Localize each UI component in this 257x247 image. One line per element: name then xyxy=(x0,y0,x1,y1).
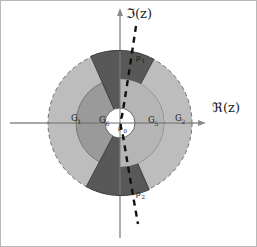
center-label-rho0-text: ρ xyxy=(118,123,123,132)
center-label-rho0-sub: 0 xyxy=(124,128,128,134)
wedge-label-rho1-sub: 1 xyxy=(142,58,146,64)
real-axis-label: ℜ(z) xyxy=(212,100,240,115)
imaginary-axis-label: ℑ(z) xyxy=(126,6,152,21)
complex-plane-figure: ℑ(z) ℜ(z) G 1 G 6 G 5 G 2 ρ 1 ρ 2 xyxy=(0,0,257,247)
region-label-g1-sub: 1 xyxy=(78,118,82,125)
region-label-g2-sub: 2 xyxy=(182,118,186,125)
wedge-label-rho2-text: ρ xyxy=(136,189,141,198)
wedge-label-rho1-text: ρ xyxy=(136,53,141,62)
region-label-g5-sub: 5 xyxy=(155,120,159,127)
figure-canvas: ℑ(z) ℜ(z) G 1 G 6 G 5 G 2 ρ 1 ρ 2 xyxy=(0,0,257,247)
wedge-label-rho2-sub: 2 xyxy=(142,194,146,200)
region-label-g6-sub: 6 xyxy=(106,120,110,127)
